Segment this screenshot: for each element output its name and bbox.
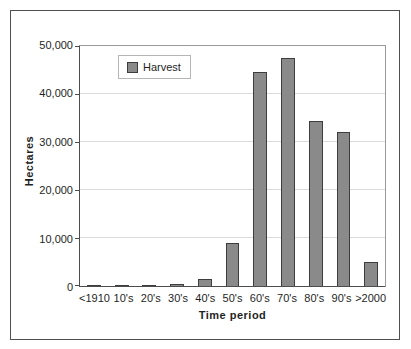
- x-axis-tick-labels: <191010's20's30's40's50's60's70's80's90'…: [79, 292, 386, 304]
- bar-slot-30's: [163, 46, 191, 286]
- y-axis-line: [79, 46, 80, 286]
- x-axis-line: [79, 286, 385, 287]
- bar: [281, 58, 295, 286]
- y-axis-tick-label: 0: [67, 281, 73, 293]
- y-axis-tick-label: 20,000: [39, 184, 73, 196]
- bar: [253, 72, 267, 286]
- legend-harvest-marker-icon: [127, 62, 138, 73]
- bar-slot-90's: [330, 46, 358, 286]
- y-axis-tick-label: 10,000: [39, 233, 73, 245]
- bar: [226, 243, 240, 286]
- bar: [198, 279, 212, 286]
- bar-slot-80's: [302, 46, 330, 286]
- bar: [337, 132, 351, 286]
- chart-screenshot: Hectares 010,00020,00030,00040,00050,000…: [0, 0, 411, 349]
- y-axis-tick-label: 50,000: [39, 39, 73, 51]
- bar-slot-50's: [219, 46, 247, 286]
- x-axis-tick-label: <1910: [79, 292, 110, 304]
- x-axis-tick-label: 70's: [273, 292, 300, 304]
- x-axis-tick-label: 40's: [192, 292, 219, 304]
- chart-frame: Hectares 010,00020,00030,00040,00050,000…: [10, 10, 400, 340]
- legend-harvest-label: Harvest: [143, 61, 181, 73]
- y-axis-tick-labels: 010,00020,00030,00040,00050,000: [19, 45, 73, 287]
- y-axis-tick-label: 40,000: [39, 87, 73, 99]
- x-axis-title: Time period: [79, 309, 386, 321]
- x-axis-tick-label: 80's: [301, 292, 328, 304]
- x-axis-tick-label: 60's: [246, 292, 273, 304]
- bar: [364, 262, 378, 286]
- x-axis-tick-label: 10's: [110, 292, 137, 304]
- bar-slot-20's: [135, 46, 163, 286]
- bar: [309, 121, 323, 286]
- x-axis-tick-label: 30's: [164, 292, 191, 304]
- x-axis-tick-label: 50's: [219, 292, 246, 304]
- legend: Harvest: [118, 55, 191, 79]
- y-axis-tick-label: 30,000: [39, 136, 73, 148]
- bar-slot->2000: [357, 46, 385, 286]
- plot-area: [79, 45, 386, 287]
- bar-slot-60's: [246, 46, 274, 286]
- x-axis-tick-label: 20's: [137, 292, 164, 304]
- bar-slot-10's: [108, 46, 136, 286]
- bar-series: [80, 46, 385, 286]
- bar-slot-<1910: [80, 46, 108, 286]
- bar-slot-40's: [191, 46, 219, 286]
- x-axis-tick-label: >2000: [355, 292, 386, 304]
- bar-slot-70's: [274, 46, 302, 286]
- x-axis-tick-label: 90's: [328, 292, 355, 304]
